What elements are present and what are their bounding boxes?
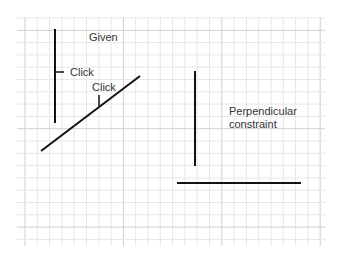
- label-click-1: Click: [70, 66, 94, 78]
- grid: [17, 17, 325, 246]
- diagram-canvas: Given Click Click Perpendicular constrai…: [0, 0, 344, 263]
- label-given: Given: [89, 31, 118, 43]
- label-click-2: Click: [92, 81, 116, 93]
- label-constraint: constraint: [229, 118, 277, 130]
- label-perpendicular: Perpendicular: [229, 105, 297, 117]
